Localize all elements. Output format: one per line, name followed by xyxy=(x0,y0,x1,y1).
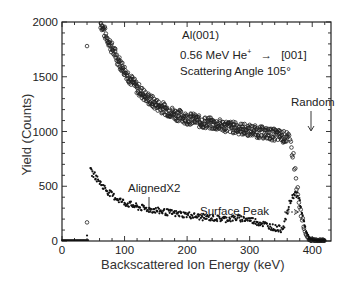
x-tick-label: 100 xyxy=(115,244,134,256)
annotation-scattering-angle: Scattering Angle 105° xyxy=(180,66,291,78)
y-tick-label: 500 xyxy=(39,180,58,192)
beam-arrow-icon: → xyxy=(260,49,272,61)
beam-direction: [001] xyxy=(281,49,307,61)
x-tick-labels: 0100200300400 xyxy=(59,244,322,256)
label-aligned: AlignedX2 xyxy=(128,183,180,195)
annotation-sample: Al(001) xyxy=(182,30,219,42)
x-tick-label: 400 xyxy=(303,244,322,256)
annotation-beam: 0.56 MeV He+ → [001] xyxy=(180,48,307,61)
x-tick-label: 300 xyxy=(240,244,259,256)
aligned-series xyxy=(61,167,326,242)
x-tick-label: 0 xyxy=(59,244,65,256)
y-tick-label: 2000 xyxy=(32,16,58,28)
x-axis-label: Backscattered Ion Energy (keV) xyxy=(101,258,285,271)
y-tick-label: 0 xyxy=(52,235,58,247)
y-axis-label: Yield (Counts) xyxy=(20,75,33,195)
beam-energy: 0.56 MeV He xyxy=(180,49,247,61)
y-tick-labels: 0500100015002000 xyxy=(32,16,58,247)
y-tick-label: 1000 xyxy=(32,126,58,138)
y-tick-label: 1500 xyxy=(32,71,58,83)
beam-charge: + xyxy=(247,48,251,55)
label-surface-peak: Surface Peak xyxy=(200,206,269,218)
label-random: Random xyxy=(291,97,334,109)
rbs-spectrum-chart: 0500100015002000 0100200300400 xyxy=(0,0,345,286)
x-tick-label: 200 xyxy=(178,244,197,256)
